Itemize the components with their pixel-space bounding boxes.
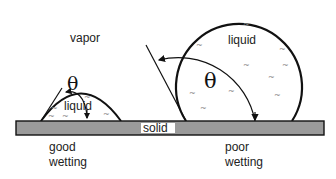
wetting-diagram: vapor liquid ~ ~ ~ ~ ~ ~ ~ ~ ~ ~ θ liqui… bbox=[0, 0, 336, 179]
left-theta-symbol: θ bbox=[67, 72, 78, 94]
good-wetting-caption-line2: wetting bbox=[48, 155, 87, 169]
svg-text:~: ~ bbox=[196, 41, 203, 50]
svg-text:~: ~ bbox=[84, 93, 91, 102]
svg-text:~: ~ bbox=[279, 45, 286, 54]
good-wetting-droplet: liquid ~ ~ ~ ~ ~ θ bbox=[41, 72, 121, 121]
svg-text:~: ~ bbox=[268, 73, 275, 82]
poor-wetting-droplet: liquid ~ ~ ~ ~ ~ ~ ~ ~ ~ ~ θ bbox=[146, 20, 302, 121]
svg-text:~: ~ bbox=[243, 61, 250, 70]
svg-text:~: ~ bbox=[48, 112, 55, 121]
solid-substrate: solid bbox=[16, 121, 324, 135]
svg-text:~: ~ bbox=[189, 89, 196, 98]
solid-label: solid bbox=[143, 121, 168, 135]
poor-wetting-caption-line1: poor bbox=[225, 140, 249, 154]
poor-wetting-caption-line2: wetting bbox=[224, 155, 263, 169]
right-theta-symbol: θ bbox=[204, 69, 217, 93]
svg-text:~: ~ bbox=[103, 110, 110, 119]
vapor-label: vapor bbox=[70, 31, 100, 45]
svg-text:~: ~ bbox=[282, 61, 289, 70]
svg-text:~: ~ bbox=[243, 20, 250, 29]
svg-text:~: ~ bbox=[228, 87, 235, 96]
right-liquid-label: liquid bbox=[228, 33, 256, 47]
good-wetting-caption-line1: good bbox=[49, 140, 76, 154]
svg-text:~: ~ bbox=[62, 112, 69, 121]
svg-text:~: ~ bbox=[200, 104, 207, 113]
svg-text:~: ~ bbox=[274, 91, 281, 100]
